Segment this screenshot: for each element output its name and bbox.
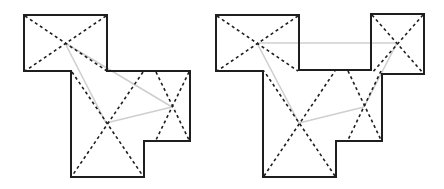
link-line: [106, 107, 172, 123]
dashed-diagonal: [348, 71, 381, 140]
dashed-diagonal: [372, 15, 423, 73]
right-floorplan: [216, 14, 424, 177]
diagram-canvas: [0, 0, 444, 189]
room-outline: [24, 15, 190, 177]
dashed-diagonal: [156, 72, 189, 140]
left-floorplan: [24, 15, 190, 177]
